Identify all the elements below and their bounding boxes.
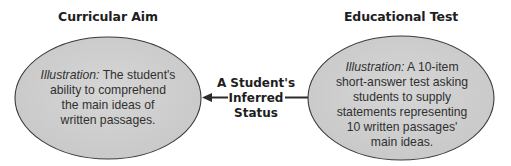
- center-label-line: A Student's: [212, 76, 300, 91]
- description-text: The student's: [99, 68, 175, 82]
- center-label-line: Status: [212, 106, 300, 121]
- description-line: statements representing: [318, 105, 486, 120]
- illustration-label: Illustration:: [41, 68, 100, 82]
- description-line: the main ideas of: [30, 98, 186, 113]
- description-line: students to supply: [318, 90, 486, 105]
- description-line: 10 written passages': [318, 120, 486, 135]
- educational-test-title: Educational Test: [311, 9, 491, 24]
- diagram-canvas: Curricular Aim Educational Test Illustra…: [0, 0, 511, 166]
- center-label-line: Inferred: [212, 91, 300, 106]
- description-line: ability to comprehend: [30, 83, 186, 98]
- description-line: main ideas.: [318, 135, 486, 150]
- curricular-aim-title: Curricular Aim: [20, 9, 196, 24]
- illustration-label: Illustration:: [345, 60, 404, 74]
- description-line: Illustration: The student's: [30, 68, 186, 83]
- description-text: A 10-item: [404, 60, 458, 74]
- description-line: Illustration: A 10-item: [318, 60, 486, 75]
- description-line: short-answer test asking: [318, 75, 486, 90]
- curricular-aim-description: Illustration: The student's ability to c…: [30, 68, 186, 128]
- educational-test-description: Illustration: A 10-item short-answer tes…: [318, 60, 486, 150]
- inferred-status-label: A Student's Inferred Status: [212, 76, 300, 121]
- description-line: written passages.: [30, 113, 186, 128]
